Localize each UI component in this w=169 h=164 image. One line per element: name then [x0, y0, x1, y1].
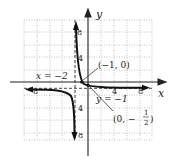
right-branch [76, 28, 146, 88]
svg-text:(0, −: (0, − [113, 114, 136, 124]
y-axis-label: y [95, 8, 103, 21]
y-intercept-label: (0, − 1 2 ) [113, 109, 154, 127]
tick-y-4: 4 [78, 54, 83, 63]
arrow-left-icon [25, 87, 33, 93]
tick-x-neg8: 8 [33, 87, 38, 96]
horizontal-asymptote-label: y = −1 [95, 94, 128, 104]
x-axis-label: x [158, 87, 165, 100]
axes [10, 9, 166, 156]
tick-y-8: 8 [77, 28, 82, 37]
svg-text:): ) [150, 114, 154, 124]
tick-y-neg8: 8 [78, 131, 83, 140]
graph: y x 8 4 8 8 4 4 8 x = −2 (−1, 0) y = −1 … [0, 0, 169, 164]
svg-text:1: 1 [144, 109, 148, 117]
svg-text:2: 2 [144, 119, 148, 127]
tick-x-8: 8 [138, 87, 143, 96]
x-intercept-label: (−1, 0) [98, 60, 130, 70]
arrow-down-icon [72, 132, 78, 141]
left-branch [30, 90, 75, 136]
arrow-right-icon [142, 85, 150, 91]
tick-y-neg4: 4 [78, 104, 83, 113]
vertical-asymptote-label: x = −2 [36, 71, 68, 81]
